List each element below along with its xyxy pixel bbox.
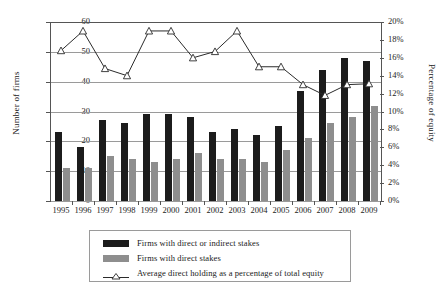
y-axis-right-tick-label: 2%: [388, 178, 428, 187]
legend-line-triangle-icon: [103, 268, 129, 278]
x-axis-tick-label: 2003: [226, 205, 248, 215]
bar: [349, 117, 356, 201]
legend-item-direct: Firms with direct stakes: [103, 251, 350, 265]
bar-group: [227, 22, 249, 201]
bar: [63, 168, 70, 201]
y-axis-right-tick-label: 18%: [388, 35, 428, 44]
bar: [305, 138, 312, 201]
x-axis-tick-label: 2004: [248, 205, 270, 215]
bar: [195, 153, 202, 201]
bar: [55, 132, 62, 201]
bar: [77, 147, 84, 201]
bar-group: [205, 22, 227, 201]
bar-group: [249, 22, 271, 201]
bar: [209, 132, 216, 201]
y-axis-right-tick-label: 14%: [388, 71, 428, 80]
bar: [239, 159, 246, 201]
bar: [187, 117, 194, 201]
y-axis-left-title: Number of firms: [11, 43, 21, 163]
bar: [297, 91, 304, 201]
bar-group: [51, 22, 73, 201]
bar-group: [95, 22, 117, 201]
x-axis-tick-label: 2007: [314, 205, 336, 215]
y-axis-right-tick-label: 0%: [388, 196, 428, 205]
bar-group: [271, 22, 293, 201]
bar: [165, 114, 172, 201]
gridline: [51, 201, 381, 202]
x-axis-tick-label: 1998: [116, 205, 138, 215]
plot-area: [50, 22, 382, 202]
bar-group: [139, 22, 161, 201]
x-axis-tick-label: 1997: [94, 205, 116, 215]
y-axis-right-title: Percentage of equity: [427, 43, 437, 163]
bar: [231, 129, 238, 201]
y-axis-right-tick-label: 16%: [388, 53, 428, 62]
bar: [341, 58, 348, 201]
bar: [283, 150, 290, 201]
y-axis-right-tick-label: 12%: [388, 89, 428, 98]
chart-legend: Firms with direct or indirect stakes Fir…: [89, 230, 351, 282]
bar: [129, 159, 136, 201]
legend-label-direct: Firms with direct stakes: [137, 253, 221, 263]
x-axis-tick-label: 1999: [138, 205, 160, 215]
bar-group: [117, 22, 139, 201]
bar-group: [315, 22, 337, 201]
x-axis-tick-label: 1996: [72, 205, 94, 215]
y-axis-right-tick-label: 20%: [388, 17, 428, 26]
bar: [319, 70, 326, 201]
legend-swatch-grey-icon: [103, 255, 129, 262]
bar-group: [337, 22, 359, 201]
x-axis-tick-label: 2005: [270, 205, 292, 215]
bar-group: [359, 22, 381, 201]
x-axis-tick-label: 2008: [336, 205, 358, 215]
x-axis-tick-label: 2009: [358, 205, 380, 215]
bar: [275, 126, 282, 201]
bar: [253, 135, 260, 201]
y-axis-right-tick-label: 8%: [388, 124, 428, 133]
bar-group: [161, 22, 183, 201]
bar: [363, 61, 370, 201]
x-axis-tickmark: [380, 201, 381, 205]
bar-group: [73, 22, 95, 201]
x-axis-tick-label: 2000: [160, 205, 182, 215]
legend-item-direct-or-indirect: Firms with direct or indirect stakes: [103, 236, 350, 250]
bar: [85, 168, 92, 201]
x-axis-tick-label: 1995: [50, 205, 72, 215]
bar: [261, 162, 268, 201]
legend-item-average-holding: Average direct holding as a percentage o…: [103, 266, 350, 280]
x-axis-tick-label: 2001: [182, 205, 204, 215]
bar: [99, 120, 106, 201]
legend-label-direct-or-indirect: Firms with direct or indirect stakes: [137, 238, 259, 248]
x-axis-tick-label: 2006: [292, 205, 314, 215]
bar: [217, 159, 224, 201]
bar: [151, 162, 158, 201]
bar: [121, 123, 128, 201]
bar: [327, 123, 334, 201]
bar-group: [183, 22, 205, 201]
x-axis-tick-label: 2002: [204, 205, 226, 215]
legend-label-average-holding: Average direct holding as a percentage o…: [137, 268, 324, 278]
bar: [107, 156, 114, 201]
legend-swatch-dark-icon: [103, 240, 129, 247]
bar-group: [293, 22, 315, 201]
y-axis-right-tick-label: 4%: [388, 160, 428, 169]
bar: [143, 114, 150, 201]
bar: [173, 159, 180, 201]
bar: [371, 106, 378, 201]
chart-figure: Number of firms Percentage of equity 010…: [0, 0, 446, 294]
y-axis-right-tick-label: 6%: [388, 142, 428, 151]
y-axis-right-tick-label: 10%: [388, 107, 428, 116]
